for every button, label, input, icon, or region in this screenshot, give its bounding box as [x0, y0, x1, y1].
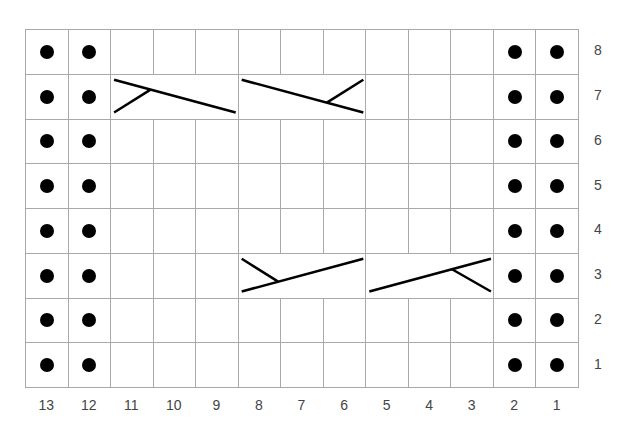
stitch-cell	[68, 74, 112, 120]
purl-dot-icon	[508, 269, 522, 283]
purl-dot-icon	[508, 179, 522, 193]
row-number-label: 6	[588, 132, 608, 148]
stitch-cell	[535, 119, 579, 165]
stitch-cell	[450, 119, 494, 165]
column-number-label: 11	[110, 397, 153, 413]
stitch-cell	[110, 298, 154, 344]
column-number-label: 4	[408, 397, 451, 413]
row-number-label: 4	[588, 221, 608, 237]
column-number-label: 13	[25, 397, 68, 413]
stitch-cell	[408, 298, 452, 344]
column-number-label: 3	[450, 397, 493, 413]
knitting-chart: 8765432113121110987654321	[0, 0, 630, 433]
purl-dot-icon	[82, 90, 96, 104]
column-number-label: 5	[365, 397, 408, 413]
row-number-label: 7	[588, 87, 608, 103]
stitch-cell	[68, 163, 112, 209]
stitch-cell	[365, 298, 409, 344]
cable-cell	[238, 253, 367, 299]
stitch-cell	[280, 298, 324, 344]
stitch-cell	[493, 163, 537, 209]
stitch-cell	[195, 119, 239, 165]
column-number-label: 1	[535, 397, 578, 413]
stitch-cell	[323, 119, 367, 165]
purl-dot-icon	[40, 45, 54, 59]
stitch-cell	[68, 298, 112, 344]
stitch-cell	[110, 119, 154, 165]
stitch-cell	[153, 342, 197, 388]
stitch-cell	[408, 163, 452, 209]
stitch-cell	[68, 119, 112, 165]
cable-cell	[110, 74, 239, 120]
column-number-label: 6	[323, 397, 366, 413]
purl-dot-icon	[82, 134, 96, 148]
stitch-cell	[450, 74, 494, 120]
stitch-cell	[535, 298, 579, 344]
stitch-cell	[110, 342, 154, 388]
stitch-cell	[323, 342, 367, 388]
purl-dot-icon	[40, 134, 54, 148]
purl-dot-icon	[40, 90, 54, 104]
purl-dot-icon	[508, 224, 522, 238]
stitch-cell	[25, 208, 69, 254]
column-number-label: 10	[153, 397, 196, 413]
stitch-cell	[110, 163, 154, 209]
stitch-cell	[153, 119, 197, 165]
purl-dot-icon	[508, 90, 522, 104]
stitch-cell	[195, 163, 239, 209]
stitch-cell	[323, 208, 367, 254]
stitch-cell	[535, 342, 579, 388]
stitch-cell	[25, 119, 69, 165]
stitch-cell	[535, 163, 579, 209]
stitch-cell	[238, 163, 282, 209]
purl-dot-icon	[550, 90, 564, 104]
stitch-cell	[450, 208, 494, 254]
stitch-cell	[493, 74, 537, 120]
stitch-cell	[535, 208, 579, 254]
stitch-cell	[238, 208, 282, 254]
stitch-cell	[68, 208, 112, 254]
row-number-label: 8	[588, 42, 608, 58]
row-number-label: 5	[588, 177, 608, 193]
stitch-cell	[25, 298, 69, 344]
stitch-cell	[25, 74, 69, 120]
stitch-cell	[365, 163, 409, 209]
stitch-cell	[238, 298, 282, 344]
purl-dot-icon	[550, 224, 564, 238]
stitch-cell	[280, 163, 324, 209]
stitch-cell	[408, 342, 452, 388]
stitch-cell	[25, 163, 69, 209]
stitch-cell	[195, 29, 239, 75]
stitch-cell	[110, 253, 154, 299]
column-number-label: 7	[280, 397, 323, 413]
stitch-cell	[153, 253, 197, 299]
stitch-cell	[450, 29, 494, 75]
purl-dot-icon	[550, 358, 564, 372]
stitch-cell	[153, 208, 197, 254]
stitch-cell	[323, 163, 367, 209]
stitch-cell	[493, 29, 537, 75]
stitch-cell	[535, 29, 579, 75]
stitch-cell	[25, 29, 69, 75]
stitch-cell	[493, 208, 537, 254]
stitch-cell	[408, 119, 452, 165]
column-number-label: 9	[195, 397, 238, 413]
purl-dot-icon	[40, 358, 54, 372]
purl-dot-icon	[82, 358, 96, 372]
stitch-cell	[365, 342, 409, 388]
purl-dot-icon	[550, 45, 564, 59]
stitch-cell	[195, 208, 239, 254]
stitch-cell	[110, 208, 154, 254]
purl-dot-icon	[508, 134, 522, 148]
stitch-cell	[280, 342, 324, 388]
stitch-cell	[68, 29, 112, 75]
column-number-label: 2	[493, 397, 536, 413]
purl-dot-icon	[40, 313, 54, 327]
purl-dot-icon	[508, 45, 522, 59]
stitch-cell	[365, 119, 409, 165]
stitch-cell	[238, 29, 282, 75]
stitch-cell	[153, 298, 197, 344]
stitch-cell	[238, 342, 282, 388]
stitch-cell	[493, 253, 537, 299]
purl-dot-icon	[82, 313, 96, 327]
